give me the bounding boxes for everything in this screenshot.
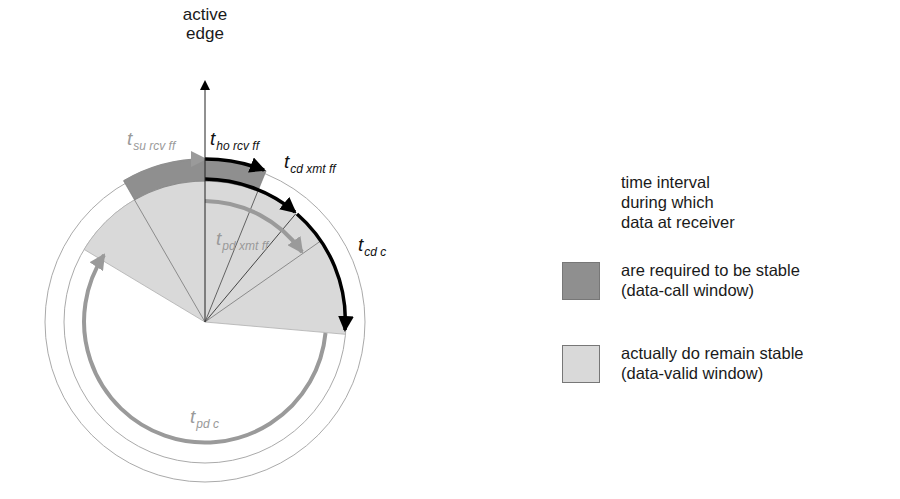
t-pd-xmt-ff-label: tpd xmt ff	[216, 228, 268, 250]
legend-item-data-call: are required to be stable (data-call win…	[562, 260, 800, 300]
legend-line1: actually do remain stable	[621, 343, 804, 363]
data-valid-swatch	[562, 345, 600, 383]
label-sub: cd c	[364, 245, 386, 259]
legend-title: time interval during which data at recei…	[621, 172, 735, 232]
legend-title-line3: data at receiver	[621, 212, 735, 232]
label-sub: pd c	[196, 417, 219, 431]
label-main: t	[210, 128, 215, 149]
label-main: t	[216, 228, 221, 249]
label-sub: ho rcv ff	[216, 139, 259, 153]
legend-text: are required to be stable (data-call win…	[621, 260, 800, 300]
legend-item-data-valid: actually do remain stable (data-valid wi…	[562, 343, 804, 383]
label-sub: cd xmt ff	[290, 162, 335, 176]
legend-line2: (data-call window)	[621, 280, 800, 300]
label-sub: su rcv ff	[133, 139, 175, 153]
label-main: t	[284, 151, 289, 172]
t-ho-rcv-ff-label: tho rcv ff	[210, 128, 259, 150]
legend-line1: are required to be stable	[621, 260, 800, 280]
legend-text: actually do remain stable (data-valid wi…	[621, 343, 804, 383]
label-main: t	[127, 128, 132, 149]
axis-title-line2: edge	[178, 24, 232, 43]
legend-line2: (data-valid window)	[621, 363, 804, 383]
t-cd-c-label: tcd c	[358, 234, 386, 256]
active-edge-label: active edge	[178, 5, 232, 43]
axis-title-line1: active	[178, 5, 232, 24]
label-sub: pd xmt ff	[222, 239, 268, 253]
label-main: t	[358, 234, 363, 255]
legend-title-line2: during which	[621, 192, 735, 212]
t-cd-xmt-ff-label: tcd xmt ff	[284, 151, 336, 173]
data-call-swatch	[562, 262, 600, 300]
legend-title-line1: time interval	[621, 172, 735, 192]
t-su-rcv-ff-label: tsu rcv ff	[127, 128, 175, 150]
timing-circle-diagram	[0, 0, 900, 499]
label-main: t	[190, 406, 195, 427]
data-valid-window-sector	[84, 181, 346, 334]
t-pd-c-label: tpd c	[190, 406, 219, 428]
